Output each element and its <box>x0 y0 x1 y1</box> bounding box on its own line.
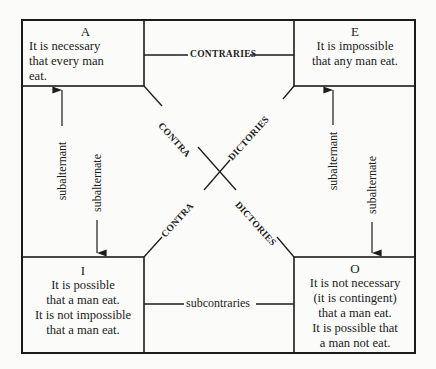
left-subalternant-label: subalternant <box>55 142 70 201</box>
left-subalternate-label: subalternate <box>90 154 105 212</box>
right-subalternate-label: subalternate <box>365 156 380 214</box>
box-a-line: It is necessary <box>29 39 142 54</box>
box-o-line: It is possible that <box>296 321 414 336</box>
box-i-line: It is possible <box>24 278 142 293</box>
contraries-label: CONTRARIES <box>190 49 256 59</box>
box-a-line: eat. <box>29 69 142 84</box>
box-e-universal-negative: E It is impossible that any man eat. <box>296 24 414 69</box>
box-o-letter: O <box>296 261 414 276</box>
box-e-line: that any man eat. <box>296 54 414 69</box>
box-o-particular-negative: O It is not necessary (it is contingent)… <box>296 261 414 351</box>
box-i-line: that a man eat. <box>24 323 142 338</box>
box-i-line: that a man eat. <box>24 293 142 308</box>
box-e-letter: E <box>296 24 414 39</box>
right-subalternant-label: subalternant <box>326 132 341 191</box>
box-o-line: a man not eat. <box>296 336 414 351</box>
box-i-particular-affirmative: I It is possible that a man eat. It is n… <box>24 263 142 338</box>
box-a-line: that every man <box>29 54 142 69</box>
box-e-line: It is impossible <box>296 39 414 54</box>
box-a-letter: A <box>29 24 142 39</box>
box-i-line: It is not impossible <box>24 308 142 323</box>
box-o-line: It is not necessary <box>296 276 414 291</box>
box-a-universal-affirmative: A It is necessary that every man eat. <box>24 24 142 84</box>
box-o-line: (it is contingent) <box>296 291 414 306</box>
box-o-line: that a man eat. <box>296 306 414 321</box>
subcontraries-label: subcontraries <box>186 296 250 311</box>
box-i-letter: I <box>24 263 142 278</box>
square-of-opposition: A It is necessary that every man eat. E … <box>0 0 436 369</box>
